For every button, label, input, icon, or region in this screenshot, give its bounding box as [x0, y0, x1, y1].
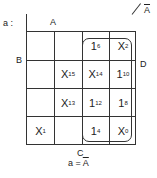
label-C: C: [77, 148, 84, 158]
label-D: D: [140, 59, 147, 69]
map-cell: 18: [110, 89, 137, 117]
label-A: A: [50, 17, 56, 27]
label-B: B: [16, 55, 22, 65]
map-cell: [27, 60, 54, 88]
map-cell: 14: [82, 117, 109, 145]
map-cell: [27, 89, 54, 117]
map-cell: [55, 32, 82, 60]
map-cell: [55, 117, 82, 145]
caption: a = A: [68, 158, 89, 168]
map-cell: X2: [110, 32, 137, 60]
map-label: a :: [3, 18, 13, 28]
map-cell: 110: [110, 60, 137, 88]
map-cell: 16: [82, 32, 109, 60]
map-cell: X13: [55, 89, 82, 117]
label-A-bar: A: [144, 5, 150, 15]
map-cell: X1: [27, 117, 54, 145]
arrow-icon: [132, 3, 141, 15]
map-cell: 112: [82, 89, 109, 117]
map-cell: X14: [82, 60, 109, 88]
map-cell: X15: [55, 60, 82, 88]
map-cell: [27, 32, 54, 60]
divider: [26, 14, 27, 31]
map-cell: X0: [110, 117, 137, 145]
